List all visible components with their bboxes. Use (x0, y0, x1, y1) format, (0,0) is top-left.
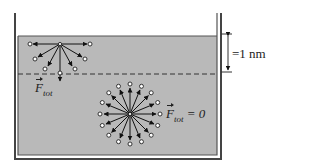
dimension-bracket (221, 34, 232, 72)
force-subscript: tot (43, 88, 53, 98)
bulk-molecule (98, 82, 162, 146)
force-symbol: F (35, 80, 43, 96)
bulk-net-force-label: Ftot = 0 (166, 106, 205, 124)
force-symbol: F (166, 106, 174, 122)
force-equals-zero: = 0 (183, 106, 205, 121)
surface-layer-thickness-label: =1 nm (232, 46, 266, 62)
surface-net-force-label: Ftot (35, 80, 52, 98)
